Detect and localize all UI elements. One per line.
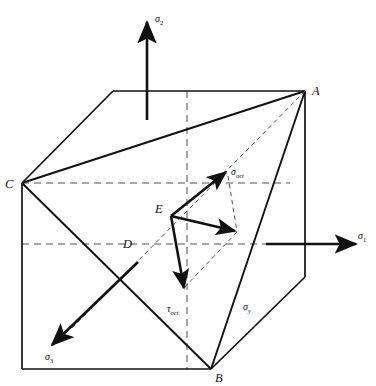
axis-label-sigma3: σ3 bbox=[45, 351, 53, 364]
octahedral-plane-triangle bbox=[22, 91, 305, 369]
vertex-label-c: C bbox=[5, 177, 14, 191]
vector-resultant bbox=[171, 216, 235, 231]
vector-tau-oct bbox=[171, 216, 184, 288]
cube-hidden-edges bbox=[22, 91, 305, 369]
cube-edge-b-to-rightbottom bbox=[211, 277, 305, 369]
octahedral-stress-diagram: σ2 σ1 σ3 σoct τoct σy A B C D E bbox=[0, 0, 376, 386]
plane-label-sigma-y: σy bbox=[243, 301, 251, 314]
vector-label-tau-oct: τoct bbox=[167, 303, 179, 316]
vertex-label-a: A bbox=[311, 84, 320, 98]
dashed-parallelogram-right bbox=[228, 176, 237, 232]
vertex-label-b: B bbox=[215, 371, 223, 385]
axis-label-sigma1: σ1 bbox=[358, 230, 366, 243]
vertex-label-e: E bbox=[154, 202, 163, 216]
triangle-edge-c-to-a bbox=[22, 91, 305, 183]
vertex-label-d: D bbox=[122, 237, 132, 251]
stress-vectors-at-e bbox=[171, 172, 235, 288]
figure-root: σ2 σ1 σ3 σoct τoct σy A B C D E bbox=[0, 0, 376, 386]
vector-label-sigma-oct: σoct bbox=[231, 166, 244, 179]
vector-sigma-oct bbox=[171, 172, 226, 216]
axis-sigma3-line bbox=[52, 262, 138, 345]
cube-visible-edges bbox=[22, 91, 305, 369]
dashed-parallelogram-bottom bbox=[182, 232, 237, 290]
axis-label-sigma2: σ2 bbox=[155, 13, 163, 26]
